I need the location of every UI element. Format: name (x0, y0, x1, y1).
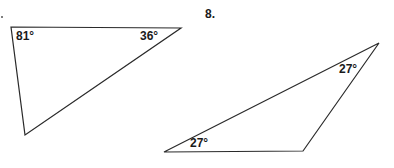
angle-label-36: 36° (140, 30, 158, 42)
angle-label-27-top: 27° (339, 63, 357, 75)
problem-number-8: 8. (205, 8, 215, 20)
angle-label-81: 81° (16, 30, 34, 42)
triangle-problem-7 (11, 27, 181, 135)
angle-label-27-bottom: 27° (190, 137, 208, 149)
